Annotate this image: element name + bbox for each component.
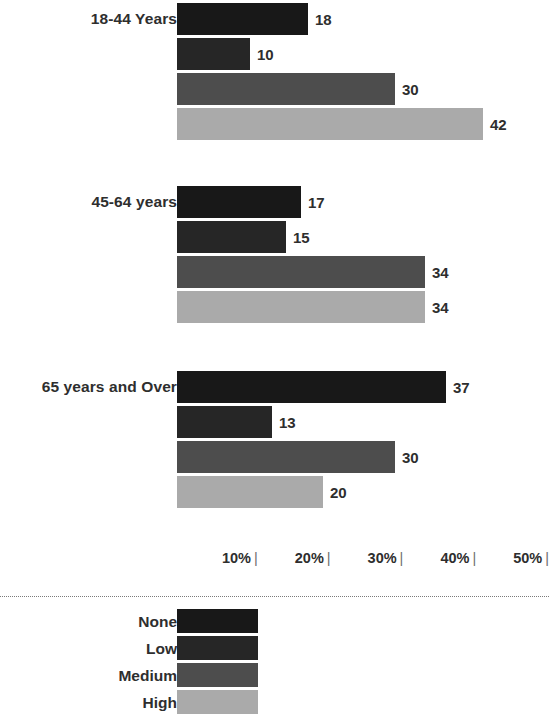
legend-label: Low <box>146 641 177 657</box>
bar-low <box>177 406 272 438</box>
legend-label: High <box>143 695 177 711</box>
x-axis: 10%|20%|30%|40%|50%| <box>0 551 549 583</box>
group-label: 45-64 years <box>91 194 177 210</box>
legend-swatch-none <box>177 609 258 633</box>
legend-item[interactable]: High <box>0 689 549 716</box>
bar-value-label: 34 <box>432 265 449 280</box>
x-axis-tick: 40%| <box>440 551 476 566</box>
x-axis-tick-label: 30% <box>368 550 397 566</box>
group-label: 65 years and Over <box>42 379 177 395</box>
x-axis-tick-label: 20% <box>295 550 324 566</box>
bar-chart: 18-44 Years1810304245-64 years1715343465… <box>0 0 549 721</box>
bar-medium <box>177 73 395 105</box>
bar-none <box>177 371 446 403</box>
legend-separator <box>0 596 549 598</box>
x-axis-tick-mark-icon: | <box>327 551 331 566</box>
bar-value-label: 15 <box>293 230 310 245</box>
bar-value-label: 17 <box>308 195 325 210</box>
bar-group: 18-44 Years18103042 <box>0 3 549 143</box>
legend-item[interactable]: Medium <box>0 662 549 689</box>
bar-value-label: 20 <box>330 485 347 500</box>
x-axis-tick: 10%| <box>222 551 258 566</box>
bar-high <box>177 476 323 508</box>
bar-value-label: 10 <box>257 47 274 62</box>
legend-item[interactable]: Low <box>0 635 549 662</box>
bar-medium <box>177 256 425 288</box>
x-axis-tick: 20%| <box>295 551 331 566</box>
x-axis-tick-label: 40% <box>440 550 469 566</box>
bar-value-label: 42 <box>490 117 507 132</box>
bar-group: 65 years and Over37133020 <box>0 371 549 511</box>
legend-item[interactable]: None <box>0 608 549 635</box>
bar-high <box>177 108 483 140</box>
bar-high <box>177 291 425 323</box>
bar-value-label: 30 <box>402 82 419 97</box>
bar-value-label: 18 <box>315 12 332 27</box>
bar-value-label: 13 <box>279 415 296 430</box>
bar-value-label: 30 <box>402 450 419 465</box>
x-axis-tick-label: 10% <box>222 550 251 566</box>
bar-low <box>177 221 286 253</box>
bar-none <box>177 3 308 35</box>
x-axis-tick-mark-icon: | <box>400 551 404 566</box>
bar-value-label: 34 <box>432 300 449 315</box>
group-label: 18-44 Years <box>91 11 177 27</box>
chart-legend: NoneLowMediumHigh <box>0 608 549 716</box>
legend-swatch-high <box>177 690 258 714</box>
legend-swatch-low <box>177 636 258 660</box>
x-axis-tick-label: 50% <box>513 550 542 566</box>
x-axis-tick-mark-icon: | <box>472 551 476 566</box>
x-axis-tick: 50%| <box>513 551 549 566</box>
legend-label: None <box>138 614 177 630</box>
bar-value-label: 37 <box>453 380 470 395</box>
bar-none <box>177 186 301 218</box>
x-axis-tick: 30%| <box>368 551 404 566</box>
x-axis-tick-mark-icon: | <box>545 551 549 566</box>
plot-area: 18-44 Years1810304245-64 years1715343465… <box>0 0 549 549</box>
bar-medium <box>177 441 395 473</box>
legend-swatch-medium <box>177 663 258 687</box>
legend-label: Medium <box>118 668 177 684</box>
x-axis-tick-mark-icon: | <box>254 551 258 566</box>
bar-group: 45-64 years17153434 <box>0 186 549 326</box>
bar-low <box>177 38 250 70</box>
